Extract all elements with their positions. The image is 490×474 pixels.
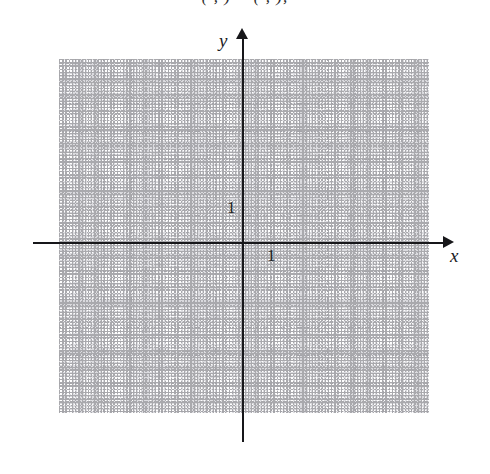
grid-hline-minor [59,209,429,210]
grid-vline-major [103,59,104,413]
grid-vline-major [383,59,384,413]
grid-hline-minor [59,361,429,362]
grid-hline-minor [59,338,429,339]
grid-hline-minor [59,305,429,306]
grid-hline-minor [59,310,429,311]
grid-hline-minor [59,120,429,121]
grid-hline-minor [59,249,429,250]
grid-hline-minor [59,181,429,182]
grid-hline-minor [59,198,429,199]
grid-hline-minor [59,125,429,126]
grid-hline-minor [59,137,429,138]
grid-hline-minor [59,377,429,378]
grid-hline-minor [59,226,429,227]
grid-hline-minor [59,316,429,317]
grid-hline-minor [59,109,429,110]
grid-hline-minor [59,260,429,261]
grid-hline-minor [59,394,429,395]
grid-hline-minor [59,86,429,87]
grid-hline-minor [59,349,429,350]
grid-hline-minor [59,321,429,322]
grid-hline-minor [59,282,429,283]
grid-hline-minor [59,142,429,143]
grid-lines [59,59,429,413]
grid-hline-major [59,187,429,188]
grid-hline-major [59,355,429,356]
grid-hline-major [59,75,429,76]
grid-hline-minor [59,81,429,82]
grid-vline-major [327,59,328,413]
grid-hline-minor [59,372,429,373]
grid-hline-minor [59,170,429,171]
grid-hline-minor [59,92,429,93]
grid-hline-major [59,327,429,328]
grid-hline-major [59,159,429,160]
grid-vline-major [131,59,132,413]
grid-hline-minor [59,204,429,205]
grid-vline-major [187,59,188,413]
grid-hline-minor [59,165,429,166]
grid-vline-major [271,59,272,413]
grid-hline-major [59,131,429,132]
grid-hline-major [59,103,429,104]
grid-vline-major [299,59,300,413]
grid-hline-major [59,215,429,216]
grid-hline-minor [59,114,429,115]
grid-vline-major [75,59,76,413]
grid-hline-minor [59,344,429,345]
grid-hline-major [59,411,429,412]
grid-hline-minor [59,193,429,194]
grid-hline-minor [59,148,429,149]
grid-hline-major [59,299,429,300]
grid-hline-minor [59,254,429,255]
grid-hline-minor [59,232,429,233]
figure-canvas: ( , ) = ( , ), x y 1 1 [0,0,490,474]
grid-hline-minor [59,293,429,294]
grid-hline-minor [59,288,429,289]
grid-vline-major [159,59,160,413]
y-axis-arrow-icon [236,28,248,39]
grid-vline-major [355,59,356,413]
grid-hline-major [59,271,429,272]
graph-grid [59,59,429,413]
y-axis-unit-tick-label: 1 [227,199,236,216]
grid-hline-minor [59,69,429,70]
grid-hline-minor [59,97,429,98]
grid-hline-minor [59,221,429,222]
cut-off-expression: ( , ) = ( , ), [0,0,490,7]
grid-hline-minor [59,400,429,401]
grid-hline-minor [59,405,429,406]
grid-hline-minor [59,176,429,177]
grid-hline-minor [59,389,429,390]
x-axis-unit-tick-label: 1 [267,247,276,264]
grid-hline-minor [59,277,429,278]
grid-hline-minor [59,153,429,154]
x-axis-label: x [450,246,458,265]
grid-hline-minor [59,265,429,266]
y-axis-label: y [219,31,227,50]
y-axis-line [242,33,244,442]
grid-hline-minor [59,237,429,238]
grid-hline-minor [59,333,429,334]
grid-vline-major [215,59,216,413]
grid-hline-minor [59,366,429,367]
grid-vline-major [411,59,412,413]
grid-hline-minor [59,64,429,65]
grid-hline-major [59,383,429,384]
